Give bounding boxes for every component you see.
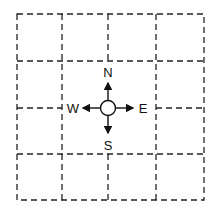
label-west: W: [67, 102, 79, 115]
grid-diagram: [0, 0, 222, 212]
label-south: S: [104, 139, 113, 152]
compass-center-circle-icon: [101, 101, 116, 116]
label-north: N: [103, 66, 112, 79]
label-east: E: [139, 102, 148, 115]
